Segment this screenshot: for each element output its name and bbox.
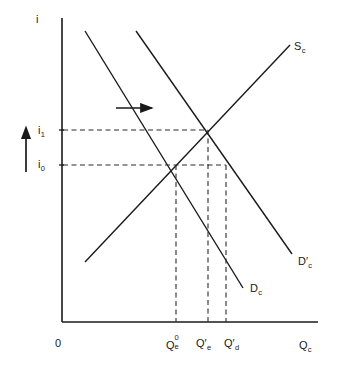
y-tick-label-i0: i0: [38, 159, 45, 170]
x-tick-label-qe0: Q0e: [166, 338, 181, 351]
x-tick-qe0-sub: e: [175, 343, 179, 351]
guide-lines-equilibrium-0: [63, 165, 226, 322]
x-tick-qe0-scripts: 0e: [175, 338, 181, 349]
x-tick-qe0-base: Q: [166, 339, 175, 351]
curve-label-demand-base: D: [250, 282, 258, 294]
x-axis-label: Qc: [299, 340, 311, 351]
curve-demand-initial: [85, 31, 243, 288]
origin-label: 0: [55, 338, 61, 349]
curve-label-demand-shifted-sub: c: [308, 261, 312, 270]
x-axis-label-sub: c: [308, 345, 312, 354]
axis-lines: [62, 18, 318, 322]
y-tick-label-i1: i1: [38, 125, 45, 136]
plot-canvas: [0, 0, 337, 374]
x-tick-qe-prime-base: Q: [196, 337, 205, 349]
x-axis-label-base: Q: [299, 339, 308, 351]
curve-demand-shifted: [136, 31, 292, 254]
curve-label-demand-sub: c: [258, 288, 262, 297]
y-tick-i0-sub: 0: [41, 164, 45, 173]
curve-label-supply-sub: c: [302, 46, 306, 55]
x-tick-qd-prime-base: Q: [224, 337, 233, 349]
y-axis-label: i: [36, 14, 38, 25]
curve-label-demand-shifted: D′c: [298, 256, 312, 267]
x-tick-qd-prime-sub: d: [235, 343, 239, 352]
curve-supply: [85, 45, 290, 262]
curve-label-supply-base: S: [294, 40, 301, 52]
x-tick-qe-prime-sub: e: [207, 343, 211, 352]
guide-lines-equilibrium-1: [63, 130, 208, 322]
y-tick-i1-sub: 1: [41, 130, 45, 139]
x-tick-qe0-sup: 0: [175, 334, 179, 342]
supply-demand-figure: i Qc 0 i1 i0 Q0e Q′e Q′d Sc Dc D′c: [0, 0, 337, 374]
x-tick-label-qe-prime: Q′e: [196, 338, 211, 349]
x-tick-label-qd-prime: Q′d: [224, 338, 239, 349]
curve-label-demand-shifted-base: D: [298, 255, 306, 267]
curve-label-supply: Sc: [294, 41, 305, 52]
curve-label-demand-initial: Dc: [250, 283, 262, 294]
